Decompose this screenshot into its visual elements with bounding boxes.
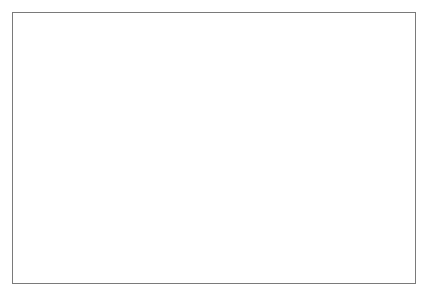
chart-container: 2728293031323334353637383940 -5-3-11357 … (0, 0, 434, 302)
figure-border (12, 12, 416, 284)
